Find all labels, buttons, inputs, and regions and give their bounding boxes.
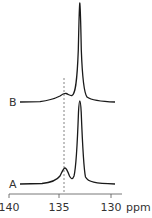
x-tick-label-135: 135	[49, 201, 70, 214]
trace-a	[20, 101, 115, 184]
nmr-spectrum-chart: B A 140 135 130 ppm	[0, 0, 152, 218]
trace-b	[20, 3, 115, 102]
trace-b-label: B	[9, 96, 17, 109]
x-tick-label-140: 140	[0, 201, 20, 214]
x-tick-label-130: 130	[101, 201, 122, 214]
x-axis-unit-label: ppm	[126, 201, 151, 214]
trace-a-label: A	[9, 178, 17, 191]
